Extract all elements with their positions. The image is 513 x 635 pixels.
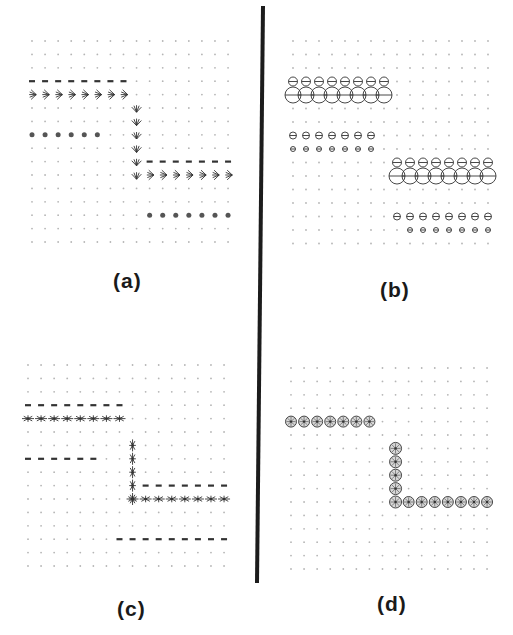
grid-dot: [171, 458, 173, 460]
grid-dot: [357, 202, 359, 204]
grid-dot: [370, 121, 372, 123]
grid-dot: [382, 501, 384, 503]
grid-dot: [318, 67, 320, 69]
star-glyph: [166, 496, 178, 503]
grid-dot: [396, 135, 398, 137]
grid-dot: [355, 528, 357, 530]
grid-dot: [355, 394, 357, 396]
grid-dot: [92, 378, 94, 380]
grid-dot: [329, 501, 331, 503]
grid-dot: [106, 458, 108, 460]
grid-dot: [145, 418, 147, 420]
grid-dot: [383, 162, 385, 164]
grid-dot: [422, 202, 424, 204]
grid-dot: [342, 528, 344, 530]
grid-dot: [409, 67, 411, 69]
grid-dot: [408, 421, 410, 423]
grid-dot: [383, 67, 385, 69]
grid-dot: [119, 391, 121, 393]
grid-dot: [40, 538, 42, 540]
grid-dot: [96, 161, 98, 163]
grid-dot: [316, 434, 318, 436]
grid-dot: [316, 381, 318, 383]
grid-dot: [132, 391, 134, 393]
grid-dot: [486, 394, 488, 396]
grid-dot: [197, 471, 199, 473]
grid-dot: [223, 418, 225, 420]
grid-dot: [223, 471, 225, 473]
grid-dot: [210, 378, 212, 380]
grid-dot: [66, 525, 68, 527]
grid-dot: [40, 512, 42, 514]
grid-dot: [292, 216, 294, 218]
grid-dot: [447, 515, 449, 517]
grid-dot: [96, 174, 98, 176]
grid-dot: [223, 364, 225, 366]
grid-dot: [79, 485, 81, 487]
grid-dot: [210, 445, 212, 447]
grid-dot: [162, 134, 164, 136]
grid-dot: [370, 54, 372, 56]
grid-dot: [136, 67, 138, 69]
grid-dot: [434, 555, 436, 557]
grid-dot: [292, 243, 294, 245]
grid-dot: [316, 555, 318, 557]
circle-bar-glyph: [432, 158, 441, 167]
grid-dot: [149, 54, 151, 56]
grid-dot: [96, 201, 98, 203]
grid-dot: [66, 512, 68, 514]
circle-star-glyph: [390, 442, 402, 454]
grid-dot: [214, 188, 216, 190]
grid-dot: [487, 148, 489, 150]
grid-dot: [184, 565, 186, 567]
grid-dot: [448, 81, 450, 83]
grid-dot: [171, 391, 173, 393]
grid-dot: [175, 40, 177, 42]
fan-up-glyph: [132, 119, 142, 126]
grid-dot: [460, 541, 462, 543]
grid-dot: [210, 431, 212, 433]
grid-dot: [197, 404, 199, 406]
grid-dot: [355, 434, 357, 436]
grid-dot: [434, 421, 436, 423]
grid-dot: [382, 394, 384, 396]
grid-dot: [57, 147, 59, 149]
grid-dot: [421, 407, 423, 409]
grid-dot: [201, 121, 203, 123]
grid-dot: [57, 201, 59, 203]
grid-dot: [119, 485, 121, 487]
grid-dot: [106, 525, 108, 527]
grid-dot: [31, 228, 33, 230]
grid-dot: [344, 67, 346, 69]
grid-dot: [355, 568, 357, 570]
circle-bar-glyph: [421, 228, 426, 233]
grid-dot: [487, 81, 489, 83]
grid-dot: [145, 458, 147, 460]
grid-dot: [223, 431, 225, 433]
grid-dot: [395, 541, 397, 543]
grid-dot: [66, 431, 68, 433]
fan-left-glyph: [147, 170, 154, 180]
grid-dot: [149, 94, 151, 96]
grid-dot: [110, 241, 112, 243]
grid-dot: [92, 364, 94, 366]
grid-dot: [408, 555, 410, 557]
grid-dot: [79, 445, 81, 447]
grid-dot: [292, 189, 294, 191]
grid-dot: [70, 161, 72, 163]
grid-dot: [290, 448, 292, 450]
grid-dot: [290, 568, 292, 570]
grid-dot: [487, 40, 489, 42]
grid-dot: [149, 228, 151, 230]
grid-dot: [303, 555, 305, 557]
grid-dot: [83, 107, 85, 109]
grid-dot: [486, 367, 488, 369]
grid-dot: [344, 40, 346, 42]
grid-dot: [382, 421, 384, 423]
grid-dot: [369, 434, 371, 436]
grid-dot: [448, 189, 450, 191]
grid-dot: [158, 391, 160, 393]
grid-dot: [370, 175, 372, 177]
grid-dot: [434, 528, 436, 530]
grid-dot: [422, 54, 424, 56]
